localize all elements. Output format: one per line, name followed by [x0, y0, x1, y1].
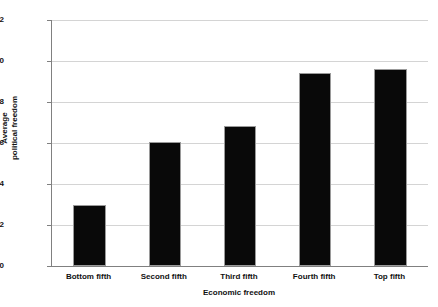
- x-axis-tick-label: Top fifth: [352, 272, 427, 282]
- y-axis-tick-label: 8: [0, 98, 4, 106]
- y-axis-tick-label: 6: [0, 139, 4, 147]
- bar: [149, 142, 181, 266]
- x-axis-tick-label: Fourth fifth: [277, 272, 352, 282]
- gridline: [52, 20, 428, 21]
- x-axis-tick-label: Second fifth: [126, 272, 201, 282]
- y-axis-tick-label: 4: [0, 180, 4, 188]
- y-axis-tick-label: 0: [0, 262, 4, 270]
- plot-area: [51, 20, 428, 267]
- bar: [224, 126, 256, 266]
- x-axis-title: Economic freedom: [51, 288, 427, 298]
- y-axis-tick-label: 2: [0, 221, 4, 229]
- gridline: [52, 61, 428, 62]
- y-axis-title-line-2: political freedom: [10, 83, 20, 173]
- bar: [73, 205, 105, 267]
- y-axis-tick-label: 10: [0, 57, 4, 65]
- bar: [374, 69, 406, 266]
- bar-chart-figure: Average political freedom 024681012 Bott…: [0, 0, 438, 307]
- y-axis-tick-label: 12: [0, 16, 4, 24]
- x-axis-tick-label: Bottom fifth: [51, 272, 126, 282]
- x-axis-tick-label: Third fifth: [201, 272, 276, 282]
- bar: [299, 73, 331, 266]
- gridline: [52, 102, 428, 103]
